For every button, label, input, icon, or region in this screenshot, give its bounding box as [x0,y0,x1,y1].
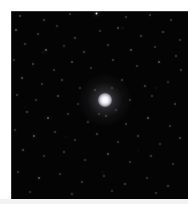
astronomical-figure [0,0,188,204]
sky-field-image [11,11,188,199]
top-margin [0,0,188,11]
left-margin [0,0,11,204]
background-noise [11,11,188,199]
bottom-margin [0,199,188,204]
